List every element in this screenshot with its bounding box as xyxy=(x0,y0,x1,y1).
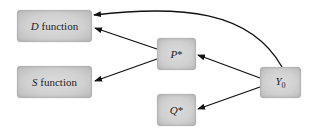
node-label: function xyxy=(39,20,78,32)
edge-p-star-to-d-function xyxy=(95,28,157,49)
edge-y0-to-q-star xyxy=(198,87,260,109)
node-label: * xyxy=(178,104,184,116)
node-y0: Y0 xyxy=(260,67,301,98)
node-label: function xyxy=(38,76,77,88)
node-var: D xyxy=(31,20,39,32)
node-label: * xyxy=(177,48,183,60)
node-var: Q xyxy=(170,104,178,116)
node-q-star: Q* xyxy=(157,94,196,126)
diagram: D function S function P* Q* Y0 xyxy=(0,0,316,134)
node-p-star: P* xyxy=(157,38,196,70)
node-s-function: S function xyxy=(17,66,92,98)
edge-p-star-to-s-function xyxy=(95,59,157,81)
node-subscript: 0 xyxy=(282,81,286,90)
edge-y0-to-p-star xyxy=(198,55,260,78)
node-d-function: D function xyxy=(17,10,92,42)
